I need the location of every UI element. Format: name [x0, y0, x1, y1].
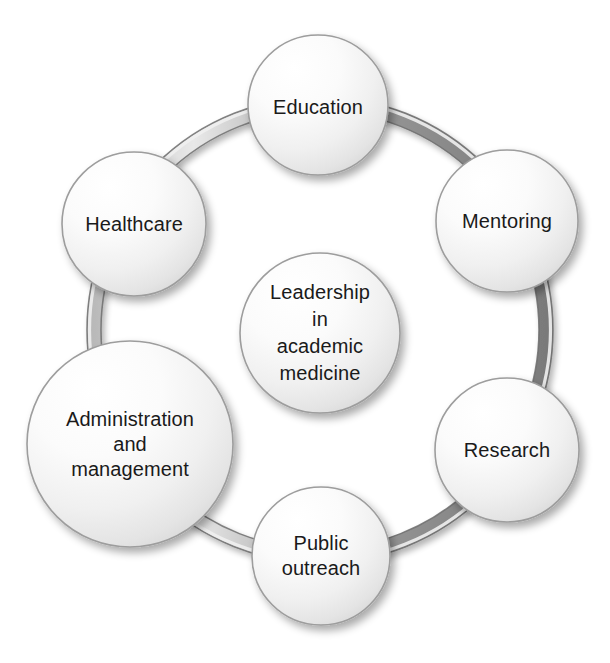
- diagram-canvas: Education Mentoring Research Public outr…: [0, 0, 610, 663]
- node-center[interactable]: [240, 253, 400, 413]
- node-healthcare[interactable]: [62, 152, 206, 296]
- node-public-outreach[interactable]: [252, 487, 390, 625]
- node-administration-and-management[interactable]: [27, 341, 233, 547]
- node-mentoring[interactable]: [436, 150, 578, 292]
- node-research[interactable]: [435, 378, 579, 522]
- node-education[interactable]: [248, 35, 388, 175]
